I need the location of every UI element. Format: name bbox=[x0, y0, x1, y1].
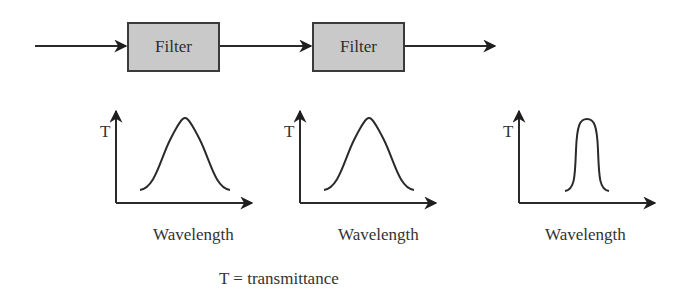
filter-label: Filter bbox=[155, 37, 192, 57]
filter-box-1: Filter bbox=[127, 22, 220, 72]
plot-3-y-label: T bbox=[503, 122, 513, 142]
plot-2-curve bbox=[324, 118, 414, 190]
plot-1-axes bbox=[116, 111, 252, 203]
filter-box-2: Filter bbox=[312, 22, 405, 72]
legend-text: T = transmittance bbox=[219, 269, 339, 289]
plot-2-axes bbox=[300, 111, 436, 203]
plot-1-x-label: Wavelength bbox=[153, 225, 234, 245]
plot-3-curve bbox=[565, 119, 609, 191]
plot-2-x-label: Wavelength bbox=[338, 225, 419, 245]
plot-1-y-label: T bbox=[100, 122, 110, 142]
plot-3-x-label: Wavelength bbox=[545, 225, 626, 245]
filter-label: Filter bbox=[340, 37, 377, 57]
plot-2-y-label: T bbox=[284, 122, 294, 142]
plot-1-curve bbox=[140, 118, 230, 190]
plot-3-axes bbox=[519, 111, 655, 203]
